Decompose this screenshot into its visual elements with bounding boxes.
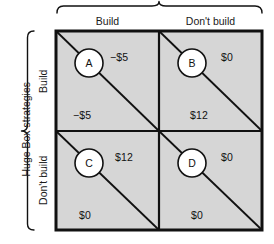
cell-D-lower-left-payoff: $0 [191, 210, 203, 221]
row-header-dont-build: Don't build [38, 128, 49, 232]
payoff-matrix-figure: Huge Box strategies Build Don't build Bu… [0, 0, 274, 244]
cell-A-upper-right-payoff: −$5 [110, 52, 128, 63]
cell-B-lower-left-payoff: $12 [190, 110, 208, 121]
top-brace [57, 2, 262, 14]
column-header-build: Build [56, 16, 159, 27]
cell-C-letter: C [79, 158, 99, 169]
cell-D-upper-right-payoff: $0 [221, 152, 233, 163]
row-header-build: Build [38, 31, 49, 131]
column-header-dont-build: Don't build [159, 16, 262, 27]
cell-B-letter: B [182, 58, 202, 69]
row-group-label: Huge Box strategies [21, 59, 32, 199]
cell-C-upper-right-payoff: $12 [115, 152, 133, 163]
cell-A-lower-left-payoff: −$5 [73, 110, 91, 121]
cell-A-letter: A [79, 58, 99, 69]
cell-B-upper-right-payoff: $0 [221, 52, 233, 63]
cell-D-letter: D [182, 158, 202, 169]
cell-C-lower-left-payoff: $0 [79, 210, 91, 221]
